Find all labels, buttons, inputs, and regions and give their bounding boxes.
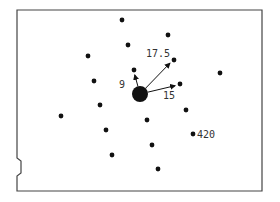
distance-arrow: [146, 63, 170, 88]
dot: [184, 108, 189, 113]
dot: [132, 68, 137, 73]
dot: [145, 118, 150, 123]
dot: [172, 58, 177, 63]
dot: [120, 18, 125, 23]
dot: [218, 71, 223, 76]
dot: [104, 128, 109, 133]
dot: [92, 79, 97, 84]
point-annotation: 420: [197, 129, 215, 140]
dot: [126, 43, 131, 48]
dot: [166, 33, 171, 38]
dot: [191, 132, 196, 137]
dot: [86, 54, 91, 59]
dot: [178, 82, 183, 87]
scatter-diagram: 917.515420: [0, 0, 280, 202]
dot: [59, 114, 64, 119]
dot: [98, 103, 103, 108]
distance-arrow: [135, 75, 138, 86]
distance-label: 9: [119, 79, 125, 90]
dot: [150, 143, 155, 148]
dot: [110, 153, 115, 158]
dot: [156, 167, 161, 172]
distance-label: 15: [163, 90, 175, 101]
center-dot: [132, 86, 148, 102]
distance-label: 17.5: [146, 48, 170, 59]
